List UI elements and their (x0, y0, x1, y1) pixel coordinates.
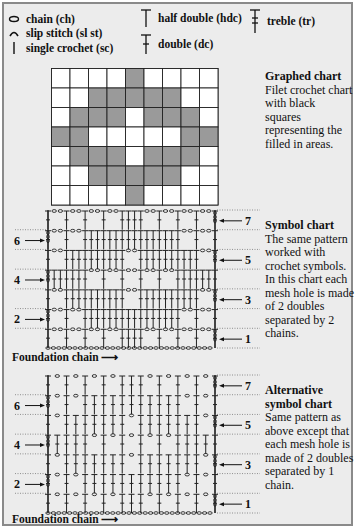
svg-text:5: 5 (245, 253, 251, 267)
single-crochet-icon (8, 41, 20, 55)
caption-text: Same pattern as above except that each m… (265, 410, 353, 492)
svg-text:7: 7 (245, 379, 251, 393)
legend-single-crochet: single crochet (sc) (8, 41, 113, 55)
caption-title: Alternative symbol chart (265, 384, 355, 411)
alt-symbol-chart: 7531642 (0, 370, 262, 520)
svg-text:1: 1 (245, 332, 251, 346)
caption-text: The same pattern worked with crochet sym… (265, 232, 354, 341)
caption-title: Symbol chart (265, 219, 355, 233)
svg-text:6: 6 (14, 399, 20, 413)
half-double-icon (140, 8, 152, 28)
legend-chain: chain (ch) (8, 13, 75, 25)
svg-text:7: 7 (245, 214, 251, 228)
double-icon (140, 33, 152, 55)
svg-text:1: 1 (245, 497, 251, 511)
svg-text:5: 5 (245, 418, 251, 432)
foundation-chain-label: Foundation chain ⟶ (12, 512, 118, 526)
legend-label: double (dc) (158, 38, 213, 50)
graphed-chart-caption: Graphed chart Filet crochet chart with b… (265, 70, 353, 151)
symbol-chart-caption: Symbol chart The same pattern worked wit… (265, 219, 355, 341)
arrow-right-icon: ⟶ (101, 351, 118, 363)
caption-text: Filet crochet chart with black squares r… (265, 83, 352, 151)
arrow-right-icon: ⟶ (101, 513, 118, 525)
slip-stitch-icon (8, 29, 20, 37)
legend-double: double (dc) (140, 33, 213, 55)
graphed-chart-grid (51, 68, 219, 206)
treble-icon (249, 8, 261, 34)
svg-text:2: 2 (14, 477, 20, 491)
svg-text:6: 6 (14, 234, 20, 248)
legend-treble: treble (tr) (249, 8, 315, 34)
symbol-chart: 7531642 (0, 205, 262, 355)
legend-slip-stitch: slip stitch (sl st) (8, 27, 102, 39)
svg-text:2: 2 (14, 312, 20, 326)
svg-text:4: 4 (14, 438, 20, 452)
caption-title: Graphed chart (265, 70, 353, 84)
chain-icon (8, 15, 20, 23)
legend-label: chain (ch) (26, 13, 75, 25)
legend-label: treble (tr) (267, 15, 315, 27)
legend-label: single crochet (sc) (26, 42, 113, 54)
alt-symbol-chart-caption: Alternative symbol chart Same pattern as… (265, 384, 355, 492)
legend-label: slip stitch (sl st) (26, 27, 102, 39)
legend-label: half double (hdc) (158, 12, 242, 24)
svg-text:3: 3 (245, 458, 251, 472)
svg-text:4: 4 (14, 273, 20, 287)
legend-half-double: half double (hdc) (140, 8, 242, 28)
foundation-chain-label: Foundation chain ⟶ (12, 350, 118, 364)
svg-text:3: 3 (245, 293, 251, 307)
